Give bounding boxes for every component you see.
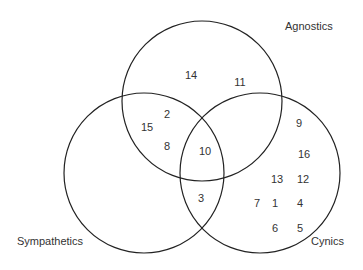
region-number: 10 <box>199 146 211 157</box>
set-label-sympathetics: Sympathetics <box>17 236 83 247</box>
region-number: 4 <box>297 198 303 209</box>
set-circle-sympathetics <box>64 93 224 253</box>
set-circle-agnostics <box>122 21 282 181</box>
region-number: 1 <box>272 198 278 209</box>
set-label-agnostics: Agnostics <box>285 21 333 32</box>
region-number: 8 <box>164 141 170 152</box>
region-number: 13 <box>271 174 283 185</box>
region-number: 2 <box>164 109 170 120</box>
region-number: 5 <box>297 223 303 234</box>
region-number: 12 <box>297 174 309 185</box>
region-number: 11 <box>234 77 245 88</box>
region-number: 9 <box>296 118 302 129</box>
region-number: 7 <box>254 198 260 209</box>
region-number: 16 <box>298 149 310 160</box>
region-number: 3 <box>198 193 204 204</box>
region-number: 14 <box>185 70 197 81</box>
venn-diagram <box>0 0 363 270</box>
region-number: 6 <box>272 223 278 234</box>
region-number: 15 <box>141 122 153 133</box>
set-circle-cynics <box>180 93 340 253</box>
set-label-cynics: Cynics <box>311 236 344 247</box>
